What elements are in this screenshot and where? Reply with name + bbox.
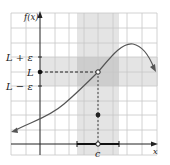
hollow-limit-point [96,70,100,74]
L-point [38,70,43,75]
f-of-c-point [96,113,101,118]
y-axis-label: f(x) [23,12,39,22]
x-axis-label: x [153,147,158,156]
c-label: c [95,148,101,159]
c-hollow-point [96,142,100,146]
upper-epsilon-label: L + ε [5,52,33,63]
lower-epsilon-label: L − ε [5,81,33,92]
L-label: L [26,67,34,78]
epsilon-delta-diagram: f(x) L + ε L L − ε c x [0,0,170,165]
